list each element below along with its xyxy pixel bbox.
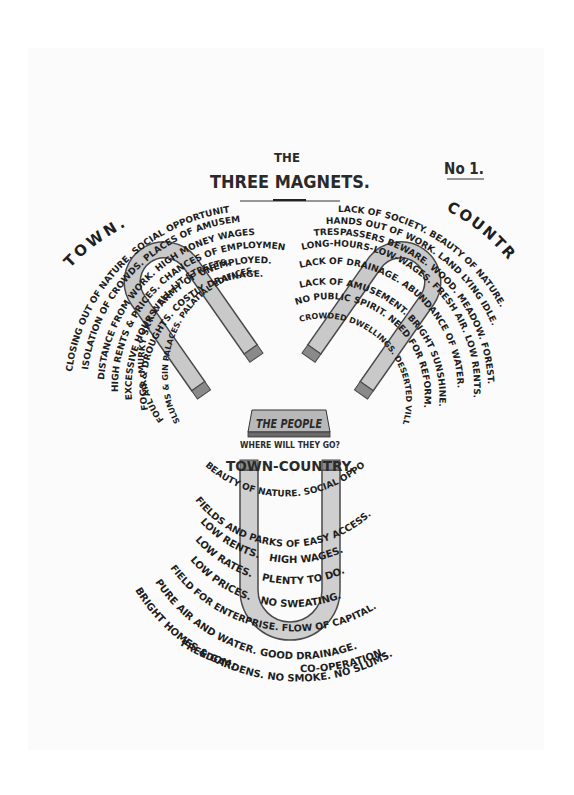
country-attributes: LACK OF SOCIETY. BEAUTY OF NATURE. HANDS… — [0, 0, 508, 426]
the-people-block: THE PEOPLE — [248, 410, 330, 437]
country-label: COUNTRY. — [0, 0, 520, 263]
town-attributes: CLOSING OUT OF NATURE. SOCIAL OPPORTUNIT… — [0, 0, 286, 425]
plate-number: No 1. — [444, 160, 484, 178]
people-question: WHERE WILL THEY GO? — [240, 440, 340, 450]
three-magnets-diagram: THE THREE MAGNETS. No 1. TOWN. CLOSING O… — [0, 0, 574, 795]
town-country-label: TOWN-COUNTRY. — [226, 458, 354, 474]
title-the: THE — [274, 150, 300, 165]
page-title: THREE MAGNETS. — [210, 171, 370, 192]
the-people-label: THE PEOPLE — [256, 416, 322, 431]
